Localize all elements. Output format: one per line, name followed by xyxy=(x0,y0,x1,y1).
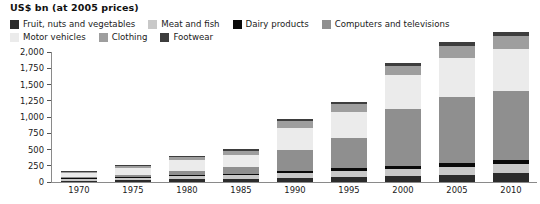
bar-segment[interactable] xyxy=(169,160,205,170)
bar-segment[interactable] xyxy=(61,173,97,177)
bar-segment[interactable] xyxy=(385,169,421,176)
bar-segment[interactable] xyxy=(223,179,259,182)
bar-segment[interactable] xyxy=(61,171,97,172)
bar-group[interactable] xyxy=(331,52,367,182)
bar-segment[interactable] xyxy=(331,138,367,169)
bar-segment[interactable] xyxy=(61,181,97,182)
legend-swatch-icon xyxy=(233,20,242,29)
bar-segment[interactable] xyxy=(331,168,367,170)
bar-segment[interactable] xyxy=(61,179,97,181)
bar-group[interactable] xyxy=(61,52,97,182)
bar-segment[interactable] xyxy=(223,151,259,155)
bar-segment[interactable] xyxy=(439,42,475,46)
legend-item-computers-and-televisions[interactable]: Computers and televisions xyxy=(322,20,450,29)
bar-group[interactable] xyxy=(493,52,529,182)
bar-segment[interactable] xyxy=(61,177,97,178)
bar-segment[interactable] xyxy=(439,58,475,98)
bar-segment[interactable] xyxy=(439,46,475,58)
bar-segment[interactable] xyxy=(115,177,151,178)
bar-segment[interactable] xyxy=(439,163,475,167)
bar-segment[interactable] xyxy=(169,157,205,160)
bar-segment[interactable] xyxy=(385,66,421,76)
bar-segment[interactable] xyxy=(439,175,475,182)
stacked-bar[interactable] xyxy=(493,52,529,182)
legend-swatch-icon xyxy=(322,20,331,29)
stacked-bar[interactable] xyxy=(169,52,205,182)
stacked-bar[interactable] xyxy=(331,52,367,182)
y-axis-tick: 1,000 xyxy=(20,112,52,122)
legend-item-label: Clothing xyxy=(112,33,148,42)
x-axis-tick-label: 2000 xyxy=(376,185,430,195)
bar-segment[interactable] xyxy=(277,121,313,127)
bar-segment[interactable] xyxy=(223,167,259,173)
bar-segment[interactable] xyxy=(223,174,259,176)
bar-segment[interactable] xyxy=(385,176,421,182)
bar-segment[interactable] xyxy=(277,178,313,182)
bar-segment[interactable] xyxy=(115,168,151,175)
bar-segment[interactable] xyxy=(277,119,313,121)
bar-group[interactable] xyxy=(223,52,259,182)
bar-segment[interactable] xyxy=(385,63,421,66)
bar-segment[interactable] xyxy=(169,176,205,179)
bar-group[interactable] xyxy=(115,52,151,182)
stacked-bar[interactable] xyxy=(223,52,259,182)
bar-segment[interactable] xyxy=(223,175,259,179)
bar-segment[interactable] xyxy=(115,165,151,166)
bar-segment[interactable] xyxy=(331,171,367,177)
legend-item-meat-and-fish[interactable]: Meat and fish xyxy=(148,20,219,29)
bar-segment[interactable] xyxy=(169,179,205,182)
bar-segment[interactable] xyxy=(223,149,259,150)
bar-segment[interactable] xyxy=(439,97,475,163)
stacked-bar[interactable] xyxy=(61,52,97,182)
legend-item-footwear[interactable]: Footwear xyxy=(160,33,213,42)
legend-item-fruit-nuts-vegetables[interactable]: Fruit, nuts and vegetables xyxy=(10,20,135,29)
legend-row: Fruit, nuts and vegetables Meat and fish… xyxy=(10,18,530,31)
stacked-bar[interactable] xyxy=(277,52,313,182)
bar-segment[interactable] xyxy=(331,102,367,104)
legend-item-dairy-products[interactable]: Dairy products xyxy=(233,20,309,29)
bar-segment[interactable] xyxy=(385,109,421,166)
bar-segment[interactable] xyxy=(277,173,313,178)
y-axis-tick-label: 1,250 xyxy=(20,96,47,106)
bar-segment[interactable] xyxy=(385,75,421,109)
bar-segment[interactable] xyxy=(61,178,97,179)
bar-segment[interactable] xyxy=(115,180,151,182)
bar-segment[interactable] xyxy=(277,128,313,150)
bar-segment[interactable] xyxy=(493,36,529,49)
bar-segment[interactable] xyxy=(493,49,529,91)
legend-item-clothing[interactable]: Clothing xyxy=(99,33,148,42)
bar-segment[interactable] xyxy=(223,155,259,168)
stacked-bar[interactable] xyxy=(385,52,421,182)
legend-swatch-icon xyxy=(148,20,157,29)
bar-segment[interactable] xyxy=(277,171,313,173)
bar-segment[interactable] xyxy=(331,177,367,182)
legend-item-motor-vehicles[interactable]: Motor vehicles xyxy=(10,33,86,42)
bar-group[interactable] xyxy=(385,52,421,182)
bar-segment[interactable] xyxy=(169,171,205,175)
legend-item-label: Motor vehicles xyxy=(23,33,86,42)
bar-segment[interactable] xyxy=(61,172,97,173)
bar-segment[interactable] xyxy=(331,104,367,112)
bar-group[interactable] xyxy=(277,52,313,182)
bar-segment[interactable] xyxy=(439,167,475,175)
bar-segment[interactable] xyxy=(493,32,529,36)
bar-segment[interactable] xyxy=(169,175,205,176)
bar-group[interactable] xyxy=(439,52,475,182)
bar-segment[interactable] xyxy=(277,150,313,171)
stacked-bar[interactable] xyxy=(115,52,151,182)
bar-segment[interactable] xyxy=(115,166,151,168)
y-axis-tick-label: 1,000 xyxy=(20,112,47,122)
y-axis-tick: 1,500 xyxy=(20,80,52,90)
bar-segment[interactable] xyxy=(385,166,421,169)
bar-segment[interactable] xyxy=(115,178,151,180)
x-axis-tick-label: 1995 xyxy=(322,185,376,195)
bar-segment[interactable] xyxy=(493,164,529,174)
bar-segment[interactable] xyxy=(169,156,205,157)
bar-group[interactable] xyxy=(169,52,205,182)
bar-segment[interactable] xyxy=(493,173,529,182)
bar-segment[interactable] xyxy=(331,112,367,138)
bar-segment[interactable] xyxy=(115,175,151,177)
stacked-bar[interactable] xyxy=(439,52,475,182)
bar-segment[interactable] xyxy=(493,91,529,160)
bar-segment[interactable] xyxy=(493,160,529,164)
